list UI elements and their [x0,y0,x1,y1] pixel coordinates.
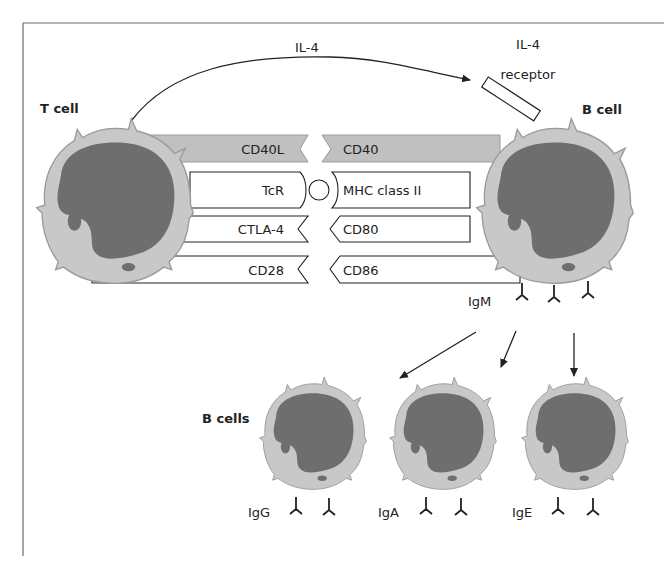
cd28-label: CD28 [248,263,284,278]
il4-receptor-label-line2: receptor [501,67,557,82]
arrow-to-igg [400,332,476,378]
b-cell-activation-diagram: IL-4 IL-4 receptor T cell B cell CD40L T… [0,0,664,563]
b-cells-label: B cells [202,411,250,426]
il4-arrow [132,57,470,120]
mhc-class-ii-label: MHC class II [343,183,421,198]
cd80-label: CD80 [343,222,379,237]
igg-antibody-1 [290,497,302,514]
cd40-label: CD40 [343,142,379,157]
antigen-peptide [309,180,329,200]
il4-receptor [482,77,541,121]
tcr-bar [190,172,306,208]
t-cell-label: T cell [40,101,79,116]
igm-label: IgM [468,294,491,309]
ige-antibody-1 [552,497,564,514]
cd40l-label: CD40L [241,142,285,157]
arrow-to-iga [501,331,516,367]
tcr-label: TcR [261,183,284,198]
ctla4-label: CTLA-4 [238,222,284,237]
b-cell-iga [390,377,497,489]
ige-label: IgE [512,505,532,520]
b-cell-label: B cell [582,102,622,117]
igm-antibodies [516,281,594,302]
b-cell-igg [260,377,367,489]
il4-label: IL-4 [295,40,319,55]
il4-receptor-label-line1: IL-4 [516,37,540,52]
cd86-label: CD86 [343,263,379,278]
iga-label: IgA [378,505,399,520]
igg-label: IgG [248,505,270,520]
b-cell-ige [522,377,629,489]
iga-antibody-1 [420,497,432,514]
